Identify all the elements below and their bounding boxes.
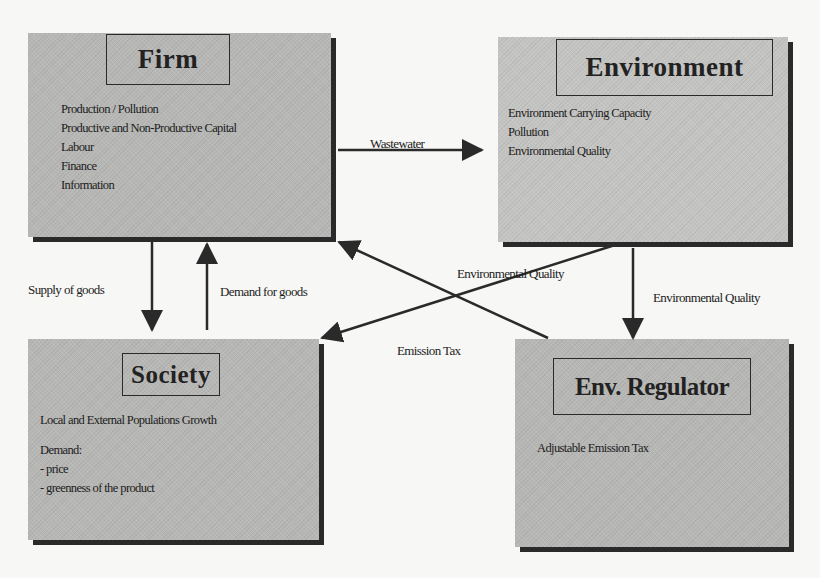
demand-label: Demand for goods (220, 284, 307, 300)
society-item-spacer (40, 430, 216, 441)
society-title: Society (122, 353, 220, 396)
env-quality-society-label: Environmental Quality (457, 266, 564, 282)
regulator-title: Env. Regulator (553, 358, 751, 415)
emission-tax-label: Emission Tax (397, 343, 461, 359)
environment-item: Environment Carrying Capacity (508, 104, 651, 123)
environment-attributes: Environment Carrying Capacity Pollution … (508, 104, 651, 161)
regulator-item: Adjustable Emission Tax (537, 439, 648, 458)
environment-item: Pollution (508, 123, 651, 142)
firm-attributes: Production / Pollution Productive and No… (61, 100, 236, 195)
firm-title: Firm (106, 34, 230, 85)
firm-item: Productive and Non-Productive Capital (61, 119, 236, 138)
regulator-attributes: Adjustable Emission Tax (537, 439, 648, 458)
regulator-box: Env. Regulator Adjustable Emission Tax (515, 339, 789, 547)
society-item: Demand: (40, 441, 216, 460)
society-item: Local and External Populations Growth (40, 411, 216, 430)
society-item: - price (40, 460, 216, 479)
environment-title: Environment (556, 39, 773, 96)
environment-item: Environmental Quality (508, 142, 651, 161)
firm-item: Production / Pollution (61, 100, 236, 119)
supply-label: Supply of goods (28, 282, 104, 298)
environment-box: Environment Environment Carrying Capacit… (498, 37, 788, 242)
emission-tax-arrow (339, 242, 548, 338)
firm-item: Finance (61, 157, 236, 176)
firm-box: Firm Production / Pollution Productive a… (28, 33, 331, 237)
firm-item: Information (61, 176, 236, 195)
society-attributes: Local and External Populations Growth De… (40, 411, 216, 498)
firm-item: Labour (61, 138, 236, 157)
wastewater-label: Wastewater (370, 136, 424, 152)
env-quality-to-society-arrow (322, 245, 615, 338)
society-box: Society Local and External Populations G… (28, 339, 319, 540)
env-quality-regulator-label: Environmental Quality (653, 290, 760, 306)
society-item: - greenness of the product (40, 479, 216, 498)
